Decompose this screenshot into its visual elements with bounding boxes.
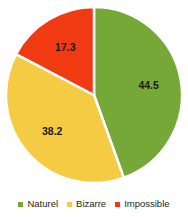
- pie-slice-value-impossible: 17.3: [55, 41, 76, 53]
- legend-item-bizarre[interactable]: Bizarre: [67, 199, 106, 209]
- pie-slice-value-bizarre: 38.2: [42, 125, 63, 137]
- pie-slice-group: [6, 7, 182, 183]
- pie-plot-area: 44.538.217.3: [0, 0, 188, 188]
- legend-swatch-icon: [115, 202, 120, 207]
- pie-chart: 44.538.217.3 NaturelBizarreImpossible: [0, 0, 188, 217]
- legend-item-naturel[interactable]: Naturel: [18, 199, 58, 209]
- legend-swatch-icon: [67, 202, 72, 207]
- legend-label: Naturel: [27, 199, 58, 209]
- pie-svg: 44.538.217.3: [0, 0, 188, 188]
- legend-label: Bizarre: [76, 199, 106, 209]
- chart-legend: NaturelBizarreImpossible: [0, 194, 188, 214]
- legend-label: Impossible: [124, 199, 169, 209]
- pie-slice-value-naturel: 44.5: [138, 79, 159, 91]
- legend-swatch-icon: [18, 202, 23, 207]
- legend-item-impossible[interactable]: Impossible: [115, 199, 169, 209]
